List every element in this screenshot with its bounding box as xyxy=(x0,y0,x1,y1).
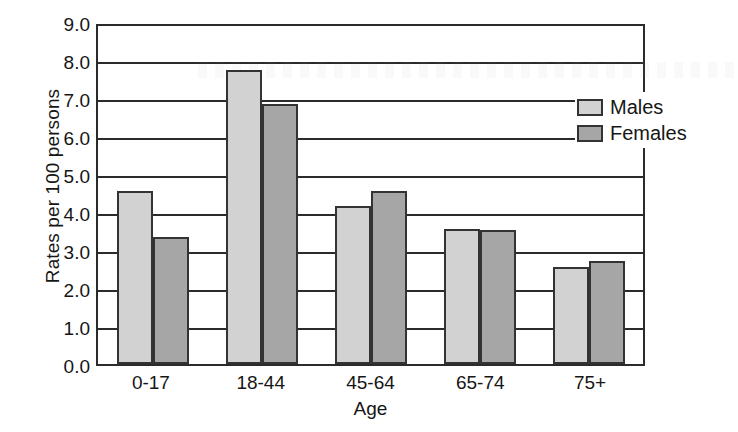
bar-group-18-44 xyxy=(207,26,316,364)
legend-item-males: Males xyxy=(577,94,687,120)
y-axis-tick-labels: 9.08.07.06.05.04.03.02.01.00.0 xyxy=(34,24,90,366)
bar-males-75- xyxy=(553,267,589,364)
legend-swatch-icon xyxy=(577,125,603,142)
plot-area: MalesFemales xyxy=(96,24,645,366)
bar-females-65-74 xyxy=(480,230,516,364)
y-tick-label: 2.0 xyxy=(34,281,90,300)
x-tick-label: 75+ xyxy=(535,372,645,394)
legend-item-females: Females xyxy=(577,120,687,146)
bar-group-45-64 xyxy=(316,26,425,364)
y-tick-label: 4.0 xyxy=(34,205,90,224)
x-axis-tick-labels: 0-1718-4445-6465-7475+ xyxy=(96,372,645,394)
bar-males-65-74 xyxy=(444,229,480,364)
y-tick-label: 8.0 xyxy=(34,53,90,72)
bar-group-65-74 xyxy=(425,26,534,364)
chart-legend: MalesFemales xyxy=(575,92,691,148)
y-tick-label: 3.0 xyxy=(34,243,90,262)
legend-label: Females xyxy=(610,123,687,143)
bar-females-45-64 xyxy=(371,191,407,364)
y-tick-label: 5.0 xyxy=(34,167,90,186)
y-tick-label: 0.0 xyxy=(34,357,90,376)
bar-females-0-17 xyxy=(153,237,189,364)
bar-males-45-64 xyxy=(335,206,371,364)
y-tick-label: 9.0 xyxy=(34,15,90,34)
x-tick-label: 0-17 xyxy=(96,372,206,394)
bar-males-18-44 xyxy=(226,70,262,365)
bar-males-0-17 xyxy=(117,191,153,364)
x-axis-title: Age xyxy=(96,398,645,420)
y-tick-label: 7.0 xyxy=(34,91,90,110)
bar-females-18-44 xyxy=(262,104,298,364)
x-tick-label: 45-64 xyxy=(316,372,426,394)
bar-group-0-17 xyxy=(98,26,207,364)
y-tick-label: 1.0 xyxy=(34,319,90,338)
bar-group-75- xyxy=(534,26,643,364)
y-tick-label: 6.0 xyxy=(34,129,90,148)
x-tick-label: 18-44 xyxy=(206,372,316,394)
x-tick-label: 65-74 xyxy=(425,372,535,394)
legend-swatch-icon xyxy=(577,99,603,116)
bars-layer xyxy=(98,26,643,364)
bar-females-75- xyxy=(589,261,625,364)
legend-label: Males xyxy=(610,97,663,117)
